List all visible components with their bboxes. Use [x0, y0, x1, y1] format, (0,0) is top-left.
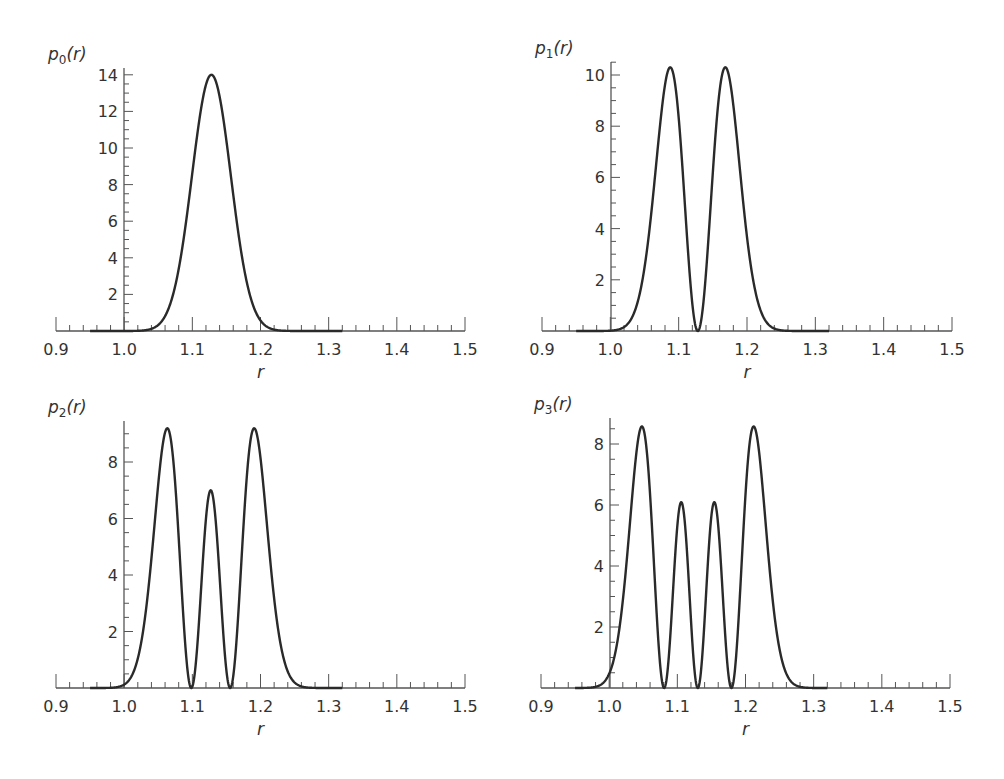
- x-tick-label: 1.2: [248, 697, 273, 716]
- y-tick-label: 2: [108, 285, 118, 304]
- y-tick-label: 4: [108, 249, 118, 268]
- density-curve: [575, 426, 827, 688]
- y-axis-label: p3(r): [533, 394, 573, 417]
- x-tick-label: 1.1: [665, 697, 690, 716]
- chart-panel-p3: 0.91.01.11.21.31.41.5r2468p3(r): [528, 394, 962, 739]
- density-curve: [576, 67, 829, 331]
- x-tick-label: 0.9: [528, 697, 553, 716]
- x-tick-label: 1.1: [180, 697, 205, 716]
- x-axis-label: r: [742, 719, 750, 739]
- x-tick-label: 1.4: [871, 340, 896, 359]
- y-tick-label: 10: [585, 66, 605, 85]
- y-tick-label: 8: [108, 453, 118, 472]
- x-tick-label: 1.2: [734, 340, 759, 359]
- y-tick-label: 4: [108, 566, 118, 585]
- x-tick-label: 1.0: [111, 340, 136, 359]
- chart-panel-p0: 0.91.01.11.21.31.41.5r2468101214p0(r): [43, 44, 477, 382]
- x-axis-label: r: [744, 362, 752, 382]
- y-tick-label: 6: [108, 510, 118, 529]
- x-tick-label: 1.4: [869, 697, 894, 716]
- x-axis-label: r: [257, 719, 265, 739]
- y-tick-label: 2: [594, 618, 604, 637]
- x-tick-label: 0.9: [43, 697, 68, 716]
- x-axis-label: r: [257, 362, 265, 382]
- chart-panel-p2: 0.91.01.11.21.31.41.5r2468p2(r): [43, 397, 477, 739]
- y-axis-label: p1(r): [534, 38, 574, 61]
- y-axis-label: p2(r): [47, 397, 87, 420]
- y-tick-label: 2: [108, 623, 118, 642]
- x-tick-label: 1.0: [111, 697, 136, 716]
- density-curve: [90, 428, 342, 688]
- y-axis-label: p0(r): [47, 44, 87, 67]
- x-tick-label: 1.2: [248, 340, 273, 359]
- x-tick-label: 1.2: [733, 697, 758, 716]
- x-tick-label: 1.5: [937, 697, 962, 716]
- y-tick-label: 2: [595, 271, 605, 290]
- x-tick-label: 1.0: [598, 340, 623, 359]
- y-tick-label: 8: [594, 435, 604, 454]
- chart-panel-p1: 0.91.01.11.21.31.41.5r246810p1(r): [529, 38, 964, 382]
- x-tick-label: 1.5: [939, 340, 964, 359]
- x-tick-label: 1.4: [384, 340, 409, 359]
- y-tick-label: 4: [594, 557, 604, 576]
- x-tick-label: 1.3: [801, 697, 826, 716]
- figure-grid: 0.91.01.11.21.31.41.5r2468101214p0(r)0.9…: [0, 0, 1004, 779]
- x-tick-label: 1.3: [316, 697, 341, 716]
- x-tick-label: 1.0: [596, 697, 621, 716]
- x-tick-label: 0.9: [43, 340, 68, 359]
- x-tick-label: 0.9: [529, 340, 554, 359]
- x-tick-label: 1.1: [180, 340, 205, 359]
- x-tick-label: 1.3: [803, 340, 828, 359]
- x-tick-label: 1.5: [452, 340, 477, 359]
- x-tick-label: 1.1: [666, 340, 691, 359]
- x-tick-label: 1.4: [384, 697, 409, 716]
- y-tick-label: 8: [108, 176, 118, 195]
- x-tick-label: 1.3: [316, 340, 341, 359]
- y-tick-label: 4: [595, 220, 605, 239]
- chart-figure: 0.91.01.11.21.31.41.5r2468101214p0(r)0.9…: [0, 0, 1004, 779]
- y-tick-label: 14: [98, 66, 118, 85]
- y-tick-label: 10: [98, 139, 118, 158]
- y-tick-label: 6: [108, 212, 118, 231]
- y-tick-label: 8: [595, 117, 605, 136]
- x-tick-label: 1.5: [452, 697, 477, 716]
- y-tick-label: 12: [98, 102, 118, 121]
- y-tick-label: 6: [594, 496, 604, 515]
- y-tick-label: 6: [595, 168, 605, 187]
